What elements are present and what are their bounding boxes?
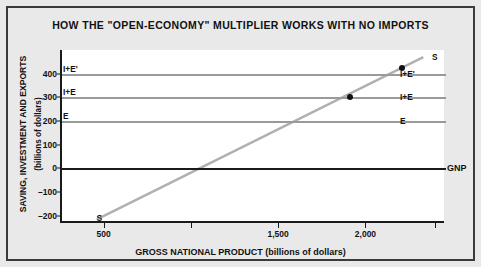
chart-title: HOW THE "OPEN-ECONOMY" MULTIPLIER WORKS …	[0, 19, 481, 31]
x-axis-ticks: 5001,5002,000	[60, 223, 444, 245]
y-tick-label--100: –100	[23, 187, 57, 197]
x-tick-label-500: 500	[97, 229, 111, 239]
inline-left-label-i-e: I+E	[63, 87, 76, 97]
data-point-1	[347, 94, 353, 100]
x-axis-title: GROSS NATIONAL PRODUCT (billions of doll…	[0, 247, 481, 257]
s-line	[97, 57, 423, 219]
y-axis-ticks: 4003002001000–100–200	[20, 50, 57, 223]
y-tick-label--200: –200	[23, 211, 57, 221]
x-tick-mark	[365, 223, 366, 228]
y-tick-label-300: 300	[23, 92, 57, 102]
series-line-i-e	[62, 97, 446, 99]
inline-left-label-e: E	[63, 111, 69, 121]
inline-right-label-i-e: I+E	[400, 92, 413, 102]
inline-left-label-i-e-: I+E'	[63, 64, 78, 74]
x-tick-mark	[435, 223, 436, 228]
inline-right-label-s: S	[432, 52, 438, 62]
inline-right-label-i-e-: I+E'	[400, 69, 415, 79]
plot-inner	[62, 50, 444, 221]
chart-figure: HOW THE "OPEN-ECONOMY" MULTIPLIER WORKS …	[0, 0, 481, 267]
x-tick-mark	[104, 223, 105, 228]
x-tick-mark	[278, 223, 279, 228]
inline-right-label-e: E	[400, 116, 406, 126]
y-tick-label-0: 0	[23, 163, 57, 173]
y-tick-label-100: 100	[23, 140, 57, 150]
series-line-gnp	[62, 168, 446, 170]
x-tick-label-2000: 2,000	[355, 229, 376, 239]
x-tick-label-1500: 1,500	[268, 229, 289, 239]
inline-right-label-gnp: GNP	[447, 163, 467, 173]
y-tick-label-400: 400	[23, 69, 57, 79]
series-line-i-e-	[62, 74, 446, 76]
x-tick-mark	[191, 223, 192, 228]
s-start-label: S	[96, 213, 102, 223]
s-line-svg	[62, 50, 446, 223]
plot-area	[60, 50, 444, 223]
series-line-e	[62, 121, 446, 123]
y-tick-label-200: 200	[23, 116, 57, 126]
